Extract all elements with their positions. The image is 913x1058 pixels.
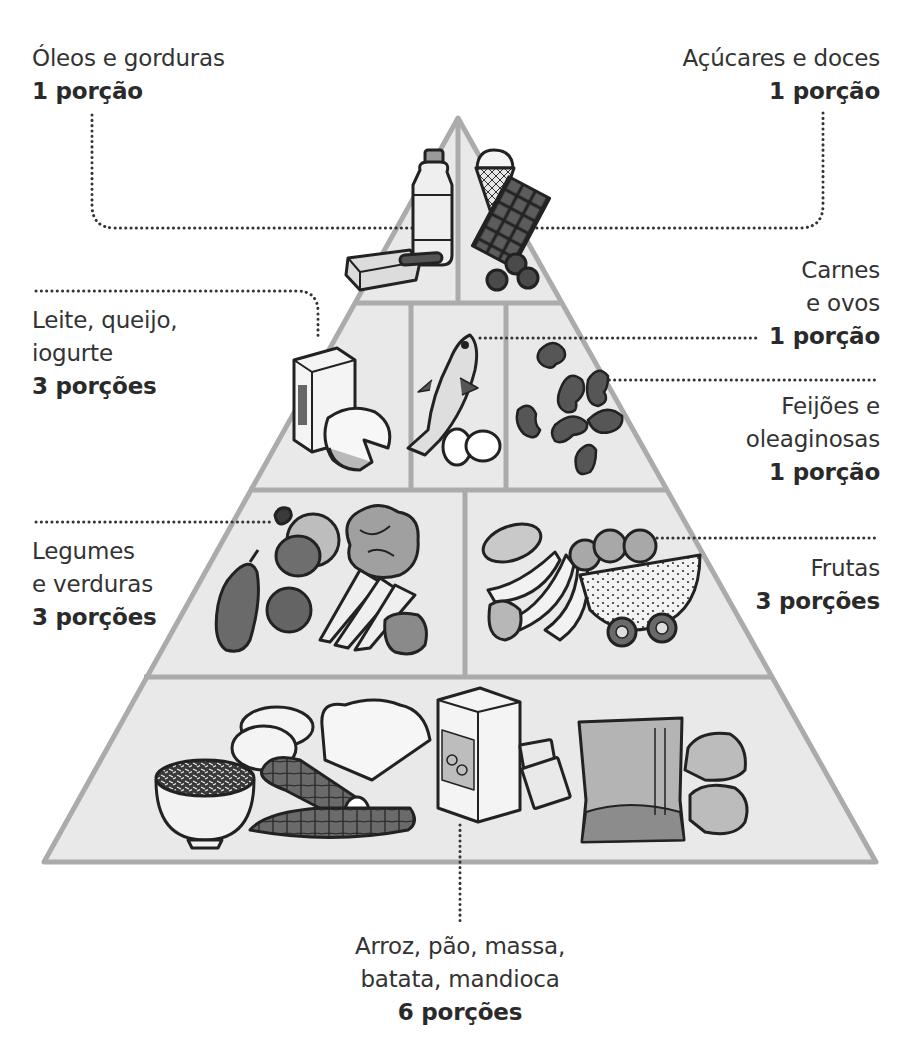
tomato-icon xyxy=(267,588,311,632)
label-arroz-name-line1: Arroz, pão, massa, xyxy=(280,930,640,963)
label-acucares: Açúcares e doces 1 porção xyxy=(683,42,880,108)
label-carnes-name-line1: Carnes xyxy=(769,254,880,287)
label-legumes-portion: 3 porções xyxy=(32,601,157,634)
label-carnes-name-line2: e ovos xyxy=(769,287,880,320)
label-arroz-name-line2: batata, mandioca xyxy=(280,963,640,996)
label-oleos-portion: 1 porção xyxy=(32,75,225,108)
label-arroz-portion: 6 porções xyxy=(280,996,640,1029)
cereal-box-icon xyxy=(438,688,520,822)
label-acucares-portion: 1 porção xyxy=(683,75,880,108)
lettuce-icon xyxy=(347,505,418,577)
label-legumes-name-line2: e verduras xyxy=(32,568,157,601)
label-feijoes-name-line1: Feijões e xyxy=(746,390,880,423)
pasta-bag-icon xyxy=(579,718,684,842)
label-feijoes-name-line2: oleaginosas xyxy=(746,423,880,456)
label-feijoes-portion: 1 porção xyxy=(746,456,880,489)
label-leite-portion: 3 porções xyxy=(32,370,177,403)
label-legumes-name-line1: Legumes xyxy=(32,535,157,568)
label-leite: Leite, queijo, iogurte 3 porções xyxy=(32,304,177,403)
label-carnes-portion: 1 porção xyxy=(769,320,880,353)
label-oleos: Óleos e gorduras 1 porção xyxy=(32,42,225,108)
label-frutas: Frutas 3 porções xyxy=(755,552,880,618)
label-oleos-name: Óleos e gorduras xyxy=(32,42,225,75)
food-pyramid-diagram xyxy=(0,0,913,1058)
apple-icon xyxy=(489,601,521,640)
oil-bottle-icon xyxy=(413,150,452,265)
bell-pepper-icon xyxy=(385,613,427,654)
connector-oleos xyxy=(92,115,415,228)
label-feijoes: Feijões e oleaginosas 1 porção xyxy=(746,390,880,489)
label-legumes: Legumes e verduras 3 porções xyxy=(32,535,157,634)
label-frutas-name: Frutas xyxy=(755,552,880,585)
label-frutas-portion: 3 porções xyxy=(755,585,880,618)
label-carnes: Carnes e ovos 1 porção xyxy=(769,254,880,353)
label-arroz: Arroz, pão, massa, batata, mandioca 6 po… xyxy=(280,930,640,1029)
label-leite-name-line1: Leite, queijo, xyxy=(32,304,177,337)
connector-acucares xyxy=(533,113,823,228)
label-leite-name-line2: iogurte xyxy=(32,337,177,370)
label-acucares-name: Açúcares e doces xyxy=(683,42,880,75)
